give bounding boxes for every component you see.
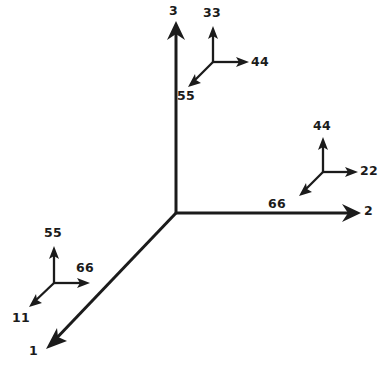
- triad-on-axis-1-group: [29, 246, 90, 307]
- vector-44-right: [318, 137, 328, 172]
- vector-66-right: [299, 172, 323, 196]
- diagram-canvas: [0, 0, 388, 370]
- triad-on-axis-3-group: [188, 26, 249, 87]
- vector-label-22: 22: [360, 165, 378, 178]
- vector-label-33: 33: [203, 7, 221, 20]
- axis-diagram-figure: 3 2 1 33 44 55 44 22 66 55 66 11: [0, 0, 388, 370]
- axis-label-3: 3: [169, 5, 178, 18]
- vector-33: [208, 26, 218, 62]
- vector-22: [323, 167, 358, 177]
- vector-label-55-left: 55: [44, 227, 62, 240]
- vector-55-left: [49, 246, 59, 283]
- vector-66-left: [54, 278, 90, 288]
- axis-label-1: 1: [29, 345, 38, 358]
- vector-label-66-left: 66: [76, 262, 94, 275]
- axis-label-2: 2: [364, 205, 373, 218]
- vector-label-66-right: 66: [268, 198, 286, 211]
- triad-on-axis-2-group: [299, 137, 358, 196]
- vector-label-44-top: 44: [251, 56, 269, 69]
- vector-11: [29, 283, 54, 307]
- vector-label-11: 11: [12, 312, 30, 325]
- vector-55-top: [188, 62, 213, 87]
- vector-label-55-top: 55: [177, 90, 195, 103]
- axis-1-arrow: [46, 213, 176, 349]
- axis-3-arrow: [167, 21, 185, 213]
- vector-label-44-right: 44: [313, 120, 331, 133]
- vector-44-top: [213, 57, 249, 67]
